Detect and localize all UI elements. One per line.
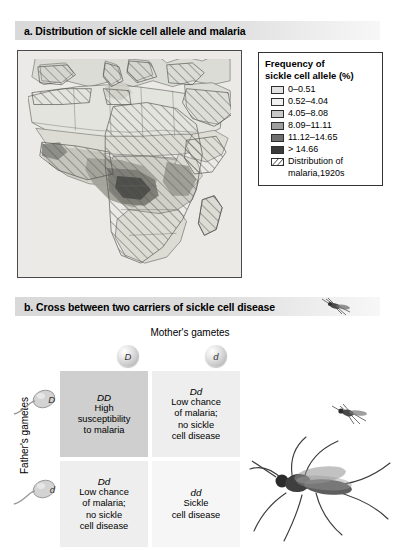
legend-row: > 14.66 — [265, 144, 377, 156]
legend-row: 0–0.51 — [265, 84, 377, 96]
mosquito-icon — [246, 435, 392, 547]
hatch-swatch-icon — [271, 158, 284, 167]
father-gamete-d-label: d — [50, 484, 55, 495]
legend-label: Distribution of — [288, 157, 343, 167]
section-a-title: a. Distribution of sickle cell allele an… — [15, 25, 246, 37]
legend-row: 4.05–8.08 — [265, 108, 377, 120]
figure-page: a. Distribution of sickle cell allele an… — [0, 0, 395, 550]
legend-row: 8.09–11.11 — [265, 120, 377, 132]
section-header-a: a. Distribution of sickle cell allele an… — [15, 21, 380, 40]
legend-row: 0.52–4.04 — [265, 96, 377, 108]
section-b-title: b. Cross between two carriers of sickle … — [15, 301, 275, 313]
mosquito-icon — [322, 296, 356, 318]
cell-text-line: to malaria — [84, 425, 125, 436]
legend-swatch — [271, 86, 284, 95]
cell-text-line: High — [94, 403, 113, 414]
legend-swatch — [271, 122, 284, 131]
legend-label: 4.05–8.08 — [288, 109, 328, 119]
legend-row-hatch: Distribution of — [265, 156, 377, 168]
mother-gamete-d-label: d — [213, 351, 218, 362]
mother-gamete-D-label: D — [125, 351, 132, 362]
cell-text-line: Low chance — [171, 397, 221, 408]
map-africa-malaria — [17, 50, 242, 278]
cell-text-line: Low chance — [79, 487, 129, 498]
legend-label: 0.52–4.04 — [288, 97, 328, 107]
mosquito-icon — [330, 400, 374, 428]
legend-label: 11.12–14.65 — [288, 133, 337, 143]
genotype: DD — [97, 392, 111, 403]
legend-label-cont: malaria,1920s — [265, 168, 377, 179]
legend-title-line1: Frequency of — [265, 58, 377, 70]
punnett-cell-Dd-bottom: Dd Low chance of malaria; no sickle cell… — [60, 461, 148, 547]
cell-text-line: no sickle — [86, 510, 122, 521]
cell-text-line: susceptibility — [78, 414, 131, 425]
cell-text-line: no sickle — [178, 420, 214, 431]
punnett-cell-Dd-top: Dd Low chance of malaria; no sickle cell… — [152, 371, 240, 457]
father-gamete-D-label: D — [48, 394, 55, 405]
mothers-gametes-label: Mother's gametes — [110, 327, 270, 338]
punnett-square: DD High susceptibility to malaria Dd Low… — [60, 371, 240, 547]
genotype: dd — [191, 487, 202, 498]
legend-swatch — [271, 110, 284, 119]
mother-gamete-D: D — [117, 345, 139, 367]
legend-swatch — [271, 98, 284, 107]
punnett-cell-DD: DD High susceptibility to malaria — [60, 371, 148, 457]
cell-text-line: Sickle — [184, 498, 209, 509]
legend-label: 8.09–11.11 — [288, 121, 332, 131]
cell-text-line: cell disease — [80, 521, 129, 532]
cell-text-line: of malaria; — [174, 408, 217, 419]
mother-gamete-d: d — [205, 345, 227, 367]
father-gamete-D: D — [12, 388, 60, 418]
legend-label: 0–0.51 — [288, 85, 316, 95]
cell-text-line: cell disease — [172, 510, 221, 521]
legend-title: Frequency of sickle cell allele (%) — [265, 58, 377, 81]
genotype: Dd — [190, 386, 203, 397]
cell-text-line: cell disease — [172, 431, 221, 442]
legend-swatch — [271, 146, 284, 155]
father-gamete-d: d — [12, 478, 60, 508]
legend-swatch — [271, 134, 284, 143]
legend-row: 11.12–14.65 — [265, 132, 377, 144]
legend-label: > 14.66 — [288, 145, 318, 155]
legend-title-line2: sickle cell allele (%) — [265, 70, 377, 82]
map-legend: Frequency of sickle cell allele (%) 0–0.… — [258, 52, 383, 186]
genotype: Dd — [98, 476, 111, 487]
cell-text-line: of malaria; — [82, 498, 125, 509]
punnett-cell-dd: dd Sickle cell disease — [152, 461, 240, 547]
